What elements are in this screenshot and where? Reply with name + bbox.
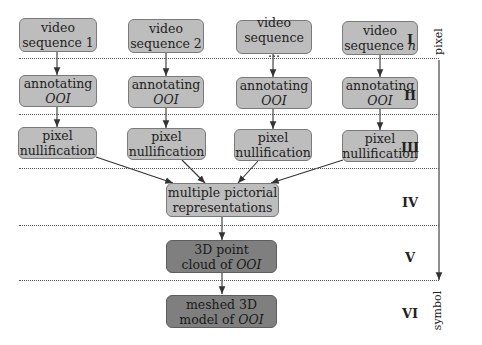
node-label: nullification <box>20 143 95 158</box>
node-label: sequence 2 <box>130 36 202 51</box>
node-label-prefix: cloud of <box>181 257 236 272</box>
node-label: pixel <box>42 128 72 143</box>
point-cloud-node: 3D point cloud of OOI <box>166 240 277 273</box>
node-label: 3D point <box>194 242 249 257</box>
stage-label-5: V <box>390 250 430 265</box>
annotating-ooi-node-2: annotating OOI <box>128 76 204 108</box>
annotating-ooi-node-1: annotating OOI <box>19 75 97 107</box>
node-label: OOI <box>45 91 70 106</box>
node-label: video <box>41 20 75 35</box>
node-label-italic: OOI <box>238 312 263 327</box>
pixel-nullification-node-3: pixel nullification <box>234 129 312 161</box>
node-label: cloud of OOI <box>181 257 261 272</box>
node-label: annotating <box>24 76 93 91</box>
node-label: OOI <box>153 92 178 107</box>
node-label: sequence ... <box>237 30 311 60</box>
stage-label-1: I <box>390 32 430 47</box>
video-sequence-1-node: video sequence 1 <box>19 18 97 52</box>
node-label: annotating <box>132 77 201 92</box>
multiple-pictorial-representations-node: multiple pictorial representations <box>166 183 279 217</box>
stage-label-2: II <box>390 88 430 103</box>
node-label-italic: OOI <box>236 257 261 272</box>
node-label: pixel <box>258 130 288 145</box>
stage-label-6: VI <box>390 306 430 321</box>
stage-label-4: IV <box>390 195 430 210</box>
pixel-nullification-node-2: pixel nullification <box>127 128 206 160</box>
node-label: multiple pictorial <box>168 185 277 200</box>
pixel-nullification-node-1: pixel nullification <box>18 127 97 159</box>
separator-1 <box>19 58 439 59</box>
node-label: OOI <box>367 93 392 108</box>
video-sequence-ellipsis-node: video sequence ... <box>236 20 312 54</box>
node-label: nullification <box>235 145 310 160</box>
video-sequence-2-node: video sequence 2 <box>128 19 204 53</box>
node-label: nullification <box>129 144 204 159</box>
node-label: representations <box>172 200 272 215</box>
separator-5 <box>19 280 439 281</box>
axis-label-pixel: pixel <box>432 28 445 55</box>
separator-3 <box>19 168 439 169</box>
node-label: video <box>257 15 291 30</box>
node-label-prefix: model of <box>179 312 238 327</box>
node-label: OOI <box>261 93 286 108</box>
node-label: video <box>149 21 183 36</box>
separator-2 <box>19 114 439 115</box>
annotating-ooi-node-3: annotating OOI <box>236 77 312 109</box>
stage-label-3: III <box>390 140 430 155</box>
axis-label-symbol: symbol <box>431 291 444 330</box>
meshed-model-node: meshed 3D model of OOI <box>166 295 277 328</box>
separator-4 <box>19 225 439 226</box>
node-label: model of OOI <box>179 312 263 327</box>
node-label: sequence 1 <box>22 35 94 50</box>
node-label: meshed 3D <box>186 297 257 312</box>
node-label: annotating <box>240 78 309 93</box>
node-label: pixel <box>151 129 181 144</box>
